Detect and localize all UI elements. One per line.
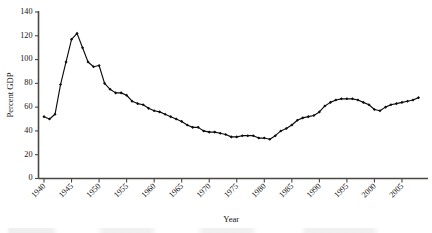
data-point-marker [98, 64, 101, 67]
data-point-marker [400, 101, 403, 104]
y-tick-label: 140 [20, 7, 32, 16]
data-point-marker [241, 134, 244, 137]
data-point-marker [246, 134, 249, 137]
data-point-marker [307, 115, 310, 118]
data-point-marker [64, 60, 67, 63]
x-tick-label: 1970 [195, 182, 213, 200]
x-tick-label: 1985 [277, 182, 295, 200]
y-tick-label: 80 [24, 78, 32, 87]
data-point-marker [213, 131, 216, 134]
debt-series-line [44, 33, 418, 139]
y-tick-label: 0 [28, 173, 32, 182]
debt-series-markers [42, 32, 420, 141]
y-tick-label: 60 [24, 102, 32, 111]
x-tick-label: 1980 [250, 182, 268, 200]
data-point-marker [219, 132, 222, 135]
data-point-marker [59, 83, 62, 86]
y-tick-label: 40 [24, 126, 32, 135]
data-point-marker [345, 97, 348, 100]
x-axis-title: Year [223, 214, 239, 224]
data-point-marker [263, 137, 266, 140]
x-tick-label: 1975 [222, 182, 240, 200]
data-point-marker [351, 97, 354, 100]
y-tick-label: 100 [20, 54, 32, 63]
x-tick-label: 1990 [305, 182, 323, 200]
data-point-marker [395, 102, 398, 105]
y-axis-title: Percent GDP [5, 72, 15, 117]
x-tick-label: 1950 [85, 182, 103, 200]
y-tick-label: 120 [20, 31, 32, 40]
data-point-marker [406, 100, 409, 103]
data-point-marker [340, 97, 343, 100]
x-tick-label: 1940 [29, 182, 47, 200]
chart-plot-area: 020406080100120140 194019451950195519601… [0, 0, 432, 233]
data-point-marker [235, 135, 238, 138]
chart-figure: 020406080100120140 194019451950195519601… [0, 0, 432, 233]
y-axis-tick-labels: 020406080100120140 [20, 7, 32, 183]
x-tick-label: 2005 [387, 182, 405, 200]
x-tick-label: 1960 [140, 182, 158, 200]
page-edge-artifact [0, 228, 432, 233]
y-tick-label: 20 [24, 150, 32, 159]
data-point-marker [81, 46, 84, 49]
x-axis-tick-labels: 1940194519501955196019651970197519801985… [29, 182, 405, 200]
data-point-marker [208, 131, 211, 134]
x-tick-label: 1995 [332, 182, 350, 200]
x-tick-label: 1945 [57, 182, 75, 200]
x-tick-label: 2000 [360, 182, 378, 200]
x-tick-label: 1955 [112, 182, 130, 200]
x-tick-label: 1965 [167, 182, 185, 200]
